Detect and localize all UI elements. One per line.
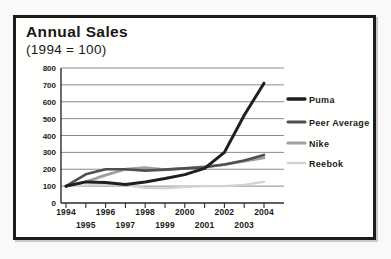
y-tick-label: 300 bbox=[43, 148, 57, 157]
legend-label: Nike bbox=[309, 139, 329, 149]
y-tick-label: 800 bbox=[43, 64, 57, 73]
x-tick-label: 2000 bbox=[175, 207, 195, 217]
y-tick-label: 600 bbox=[43, 98, 57, 107]
x-tick-label: 1999 bbox=[155, 220, 175, 230]
x-tick-label: 2001 bbox=[195, 220, 215, 230]
y-tick-label: 700 bbox=[43, 81, 57, 90]
y-tick-label: 100 bbox=[43, 182, 57, 191]
sales-chart: 0100200300400500600700800199419951996199… bbox=[16, 18, 373, 237]
x-tick-label: 2004 bbox=[254, 207, 274, 217]
x-tick-label: 1996 bbox=[96, 207, 116, 217]
y-tick-label: 200 bbox=[43, 165, 57, 174]
y-tick-label: 500 bbox=[43, 115, 57, 124]
legend-label: Peer Average bbox=[309, 118, 369, 128]
x-tick-label: 1998 bbox=[135, 207, 155, 217]
x-tick-label: 1995 bbox=[76, 220, 96, 230]
legend-label: Puma bbox=[309, 95, 335, 105]
x-tick-label: 1997 bbox=[116, 220, 136, 230]
x-tick-label: 2002 bbox=[215, 207, 235, 217]
chart-card: Annual Sales (1994 = 100) 01002003004005… bbox=[13, 15, 376, 240]
y-tick-label: 400 bbox=[43, 132, 57, 141]
x-tick-label: 1994 bbox=[56, 207, 76, 217]
x-tick-label: 2003 bbox=[234, 220, 254, 230]
legend-label: Reebok bbox=[309, 159, 344, 169]
